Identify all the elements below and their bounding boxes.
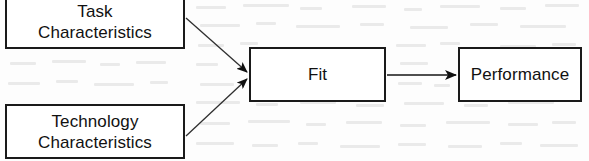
node-performance: Performance [458, 47, 582, 102]
node-task-characteristics: Task Characteristics [5, 0, 185, 49]
node-technology-characteristics: Technology Characteristics [5, 104, 185, 159]
node-technology-characteristics-label: Technology Characteristics [38, 111, 152, 153]
diagram-canvas: Task Characteristics Technology Characte… [0, 0, 589, 161]
edge-technology-to-fit [186, 79, 247, 136]
node-task-characteristics-label: Task Characteristics [38, 1, 152, 43]
node-performance-label: Performance [471, 64, 569, 85]
edge-task-to-fit [186, 18, 247, 72]
node-fit-label: Fit [308, 64, 327, 85]
node-fit: Fit [249, 47, 386, 102]
